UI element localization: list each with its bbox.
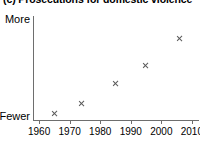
x-tick-label: 2000 xyxy=(148,126,174,137)
x-tick-mark xyxy=(161,121,162,124)
x-tick-label: 1990 xyxy=(118,126,144,137)
x-tick-label: 2010 xyxy=(179,126,200,137)
x-tick-mark xyxy=(39,121,40,124)
x-tick-mark xyxy=(100,121,101,124)
x-tick-mark xyxy=(70,121,71,124)
chart-title: (c) Prosecutions for domestic violence xyxy=(3,0,200,5)
y-axis-high-label: More xyxy=(0,13,30,25)
data-point-marker xyxy=(143,62,150,69)
y-axis-line xyxy=(33,16,34,120)
x-tick-label: 1960 xyxy=(26,126,52,137)
data-point-marker xyxy=(51,110,58,117)
y-axis-low-label: Fewer xyxy=(0,110,30,122)
data-point-marker xyxy=(176,35,183,42)
chart-screenshot: (c) Prosecutions for domestic violence M… xyxy=(0,0,200,142)
x-axis-line xyxy=(33,120,199,121)
x-tick-label: 1970 xyxy=(57,126,83,137)
data-point-marker xyxy=(78,100,85,107)
x-tick-mark xyxy=(192,121,193,124)
x-tick-label: 1980 xyxy=(87,126,113,137)
x-tick-mark xyxy=(131,121,132,124)
data-point-marker xyxy=(112,80,119,87)
